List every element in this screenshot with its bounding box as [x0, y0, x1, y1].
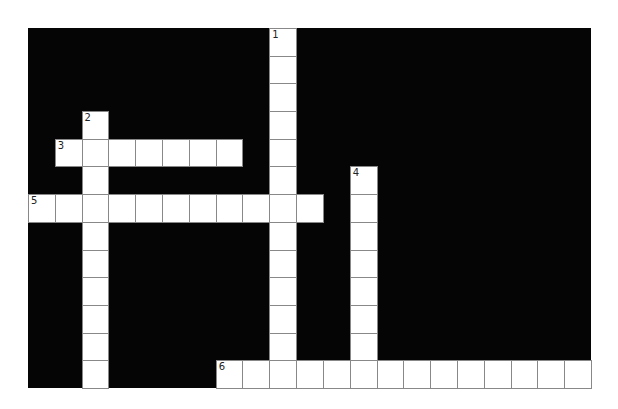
- crossword-cell[interactable]: 2: [82, 111, 110, 140]
- crossword-cell[interactable]: [189, 139, 217, 168]
- crossword-cell[interactable]: 1: [269, 28, 297, 57]
- clue-number: 2: [85, 113, 91, 123]
- crossword-cell[interactable]: [82, 333, 110, 362]
- clue-number: 5: [31, 196, 37, 206]
- crossword-cell[interactable]: [82, 194, 110, 223]
- crossword-cell[interactable]: [269, 56, 297, 85]
- crossword-cell[interactable]: [350, 277, 378, 306]
- clue-number: 4: [353, 168, 359, 178]
- crossword-cell[interactable]: [296, 360, 324, 389]
- crossword-cell[interactable]: [242, 360, 270, 389]
- crossword-cell[interactable]: [484, 360, 512, 389]
- crossword-cell[interactable]: [537, 360, 565, 389]
- crossword-cell[interactable]: 5: [28, 194, 56, 223]
- crossword-cell[interactable]: [350, 333, 378, 362]
- clue-number: 3: [58, 141, 64, 151]
- crossword-cell[interactable]: [162, 139, 190, 168]
- crossword-cell[interactable]: [269, 222, 297, 251]
- crossword-cell[interactable]: [82, 305, 110, 334]
- crossword-cell[interactable]: [269, 194, 297, 223]
- crossword-cell[interactable]: [350, 250, 378, 279]
- crossword-cell[interactable]: [269, 166, 297, 195]
- crossword-cell[interactable]: [269, 83, 297, 112]
- crossword-cell[interactable]: [350, 222, 378, 251]
- crossword-cell[interactable]: [269, 111, 297, 140]
- crossword-cell[interactable]: [350, 360, 378, 389]
- crossword-cell[interactable]: [216, 194, 244, 223]
- crossword-cell[interactable]: [242, 194, 270, 223]
- crossword-cell[interactable]: [269, 139, 297, 168]
- crossword-cell[interactable]: [430, 360, 458, 389]
- crossword-cell[interactable]: [564, 360, 592, 389]
- crossword-cell[interactable]: [82, 277, 110, 306]
- crossword-cell[interactable]: [457, 360, 485, 389]
- crossword-cell[interactable]: [511, 360, 539, 389]
- crossword-cell[interactable]: [403, 360, 431, 389]
- crossword-cell[interactable]: [82, 360, 110, 389]
- crossword-cell[interactable]: [108, 194, 136, 223]
- crossword-cell[interactable]: [350, 194, 378, 223]
- crossword-cell[interactable]: [135, 194, 163, 223]
- crossword-cell[interactable]: [269, 305, 297, 334]
- crossword-cell[interactable]: 4: [350, 166, 378, 195]
- crossword-cell[interactable]: [269, 333, 297, 362]
- crossword-cell[interactable]: [135, 139, 163, 168]
- clue-number: 6: [219, 362, 225, 372]
- crossword-cell[interactable]: [323, 360, 351, 389]
- crossword-grid: 123456: [28, 28, 591, 388]
- crossword-cell[interactable]: [82, 139, 110, 168]
- crossword-cell[interactable]: [82, 166, 110, 195]
- crossword-cell[interactable]: [162, 194, 190, 223]
- crossword-cell[interactable]: [82, 250, 110, 279]
- crossword-cell[interactable]: [377, 360, 405, 389]
- crossword-cell[interactable]: 3: [55, 139, 83, 168]
- crossword-cell[interactable]: [269, 360, 297, 389]
- clue-number: 1: [272, 30, 278, 40]
- crossword-cell[interactable]: [269, 277, 297, 306]
- crossword-cell[interactable]: [189, 194, 217, 223]
- crossword-cell[interactable]: 6: [216, 360, 244, 389]
- crossword-cell[interactable]: [108, 139, 136, 168]
- crossword-cell[interactable]: [269, 250, 297, 279]
- crossword-cell[interactable]: [296, 194, 324, 223]
- crossword-cell[interactable]: [82, 222, 110, 251]
- crossword-cell[interactable]: [55, 194, 83, 223]
- crossword-cell[interactable]: [216, 139, 244, 168]
- crossword-cell[interactable]: [350, 305, 378, 334]
